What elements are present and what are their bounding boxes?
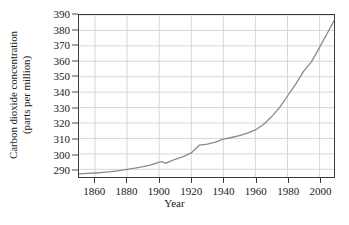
x-tick-mark	[191, 178, 192, 183]
x-tick-mark	[288, 178, 289, 183]
x-tick-label: 1960	[245, 186, 267, 197]
x-tick-label: 1880	[115, 186, 137, 197]
x-tick-mark	[320, 178, 321, 183]
x-tick-label: 2000	[309, 186, 331, 197]
x-tick-label: 1920	[180, 186, 202, 197]
x-axis-title: Year	[0, 197, 349, 209]
x-axis-tick-labels: 18601880190019201940196019802000	[0, 0, 349, 225]
x-tick-mark	[223, 178, 224, 183]
x-tick-label: 1860	[83, 186, 105, 197]
x-tick-mark	[256, 178, 257, 183]
x-tick-mark	[126, 178, 127, 183]
x-tick-mark	[94, 178, 95, 183]
x-tick-mark	[159, 178, 160, 183]
x-tick-label: 1900	[148, 186, 170, 197]
x-tick-label: 1940	[212, 186, 234, 197]
co2-concentration-chart: Carbon dioxide concentration (parts per …	[0, 0, 349, 225]
x-tick-label: 1980	[277, 186, 299, 197]
